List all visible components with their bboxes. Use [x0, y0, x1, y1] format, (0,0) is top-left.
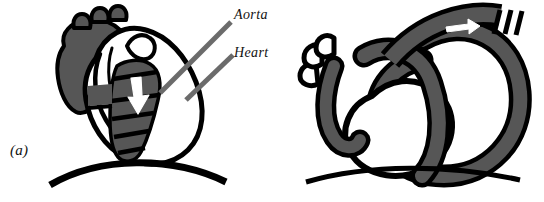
figure-panel-pair: (a) Aorta Heart — [0, 0, 544, 202]
aortic-arch-stub — [127, 35, 155, 59]
tube-stub-3 — [316, 36, 334, 57]
panel-b: (b) — [272, 0, 544, 202]
baseline-arc-a — [50, 163, 226, 185]
vessel-stub-3 — [109, 6, 126, 20]
cut-end-dash-2 — [505, 10, 511, 34]
heart-illustration — [0, 0, 272, 202]
tube-loop-illustration — [272, 0, 544, 202]
vessel-stub-2 — [91, 8, 108, 22]
aorta-band-left-tail-edge — [88, 106, 112, 108]
aorta-band-left-tail — [88, 84, 112, 106]
vessel-stub-1 — [73, 14, 90, 28]
callout-label-heart: Heart — [234, 45, 269, 61]
panel-a: (a) Aorta Heart — [0, 0, 272, 202]
callout-label-aorta: Aorta — [234, 7, 268, 23]
panel-a-label: (a) — [10, 142, 28, 159]
cut-end-dash-3 — [516, 11, 522, 35]
